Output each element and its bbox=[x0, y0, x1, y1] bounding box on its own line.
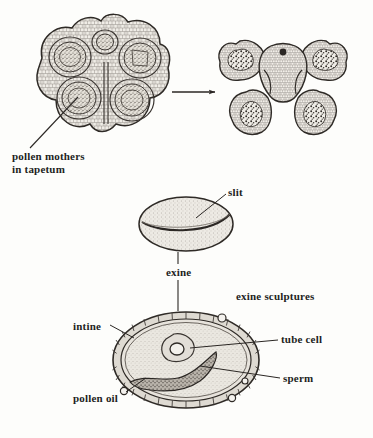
figure-artwork bbox=[0, 0, 373, 438]
label-tube-cell: tube cell bbox=[281, 333, 322, 346]
pollen-oil-droplet bbox=[242, 378, 248, 384]
label-intine: intine bbox=[73, 320, 101, 333]
pollen-sac bbox=[110, 79, 154, 121]
pollen-grain-section bbox=[112, 312, 259, 408]
pollen-oil-droplet bbox=[228, 394, 235, 401]
label-exine-sculptures: exine sculptures bbox=[236, 290, 314, 303]
label-pollen-oil: pollen oil bbox=[73, 392, 118, 405]
pollen-sac bbox=[49, 37, 91, 77]
pollen-oil-droplet bbox=[120, 387, 127, 394]
label-pollen-mothers: pollen mothers in tapetum bbox=[12, 150, 85, 176]
label-exine: exine bbox=[166, 266, 191, 279]
label-sperm: sperm bbox=[283, 372, 313, 385]
label-slit: slit bbox=[228, 186, 243, 199]
pollen-oil-droplet bbox=[218, 314, 226, 322]
pollen-sac bbox=[119, 38, 161, 78]
pollen-development-figure: pollen mothers in tapetum slit exine exi… bbox=[0, 0, 373, 438]
young-anther-cross-section bbox=[37, 14, 170, 131]
mature-anther-cross-section bbox=[219, 40, 347, 134]
pollen-grain-exterior bbox=[139, 197, 233, 251]
